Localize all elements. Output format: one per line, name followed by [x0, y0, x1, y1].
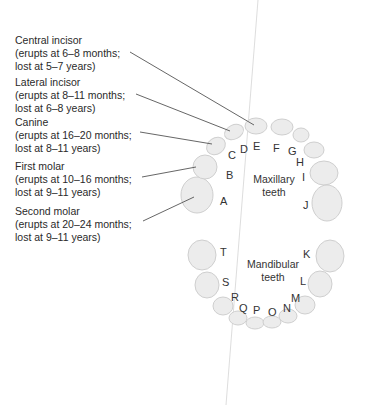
tooth-K — [316, 240, 344, 272]
tooth-I — [310, 161, 338, 185]
tooth-letter-R: R — [231, 291, 239, 303]
tooth-letter-E: E — [253, 140, 260, 152]
guide-line — [226, 0, 258, 405]
tooth-E — [245, 118, 267, 134]
tooth-D — [222, 121, 246, 142]
tooth-letter-T: T — [220, 246, 227, 258]
callout-lateral-incisor: Lateral incisor (erupts at 8–11 months; … — [15, 76, 125, 115]
maxillary-label-line2: teeth — [244, 186, 304, 199]
leader-central-incisor — [130, 52, 254, 125]
callout-loss: lost at 9–11 years) — [15, 186, 132, 199]
callout-eruption: (erupts at 10–16 months; — [15, 173, 132, 186]
mandibular-label-line2: teeth — [238, 271, 308, 284]
tooth-letter-M: M — [291, 292, 300, 304]
callout-eruption: (erupts at 16–20 months; — [15, 129, 132, 142]
callout-title: Lateral incisor — [15, 76, 125, 89]
callout-canine: Canine (erupts at 16–20 months; lost at … — [15, 116, 132, 155]
tooth-G — [293, 128, 309, 142]
callout-second-molar: Second molar (erupts at 20–24 months; lo… — [15, 205, 132, 244]
tooth-letter-D: D — [240, 143, 248, 155]
leader-lateral-incisor — [136, 94, 230, 131]
tooth-letter-S: S — [222, 276, 229, 288]
tooth-letter-C: C — [228, 149, 236, 161]
tooth-J — [312, 185, 342, 221]
tooth-L — [308, 271, 332, 297]
tooth-letter-N: N — [283, 302, 291, 314]
mandibular-label-line1: Mandibular — [238, 258, 308, 271]
maxillary-teeth-label: Maxillary teeth — [244, 173, 304, 199]
leader-canine — [140, 132, 212, 144]
callout-eruption: (erupts at 8–11 months; — [15, 89, 125, 102]
callout-central-incisor: Central incisor (erupts at 6–8 months; l… — [15, 34, 120, 73]
callout-title: Second molar — [15, 205, 132, 218]
tooth-letter-P: P — [253, 304, 260, 316]
tooth-A — [181, 177, 213, 213]
tooth-C — [203, 134, 229, 159]
tooth-letter-O: O — [268, 306, 277, 318]
tooth-S — [195, 272, 219, 298]
maxillary-teeth — [181, 118, 342, 221]
tooth-F — [271, 119, 293, 135]
tooth-B — [193, 155, 217, 179]
tooth-letter-J: J — [303, 199, 309, 211]
callout-title: First molar — [15, 160, 132, 173]
callout-title: Central incisor — [15, 34, 120, 47]
mandibular-teeth — [188, 240, 344, 329]
mandibular-teeth-label: Mandibular teeth — [238, 258, 308, 284]
tooth-letter-B: B — [226, 169, 233, 181]
tooth-H — [304, 142, 324, 158]
callout-eruption: (erupts at 6–8 months; — [15, 47, 120, 60]
maxillary-label-line1: Maxillary — [244, 173, 304, 186]
callout-loss: lost at 6–8 years) — [15, 102, 125, 115]
tooth-letter-F: F — [273, 142, 280, 154]
leader-first-molar — [142, 167, 196, 177]
tooth-letter-H: H — [296, 156, 304, 168]
callout-title: Canine — [15, 116, 132, 129]
callout-first-molar: First molar (erupts at 10–16 months; los… — [15, 160, 132, 199]
tooth-R — [213, 297, 233, 315]
tooth-P — [246, 317, 264, 329]
tooth-letter-A: A — [220, 195, 227, 207]
callout-eruption: (erupts at 20–24 months; — [15, 218, 132, 231]
callout-loss: lost at 5–7 years) — [15, 60, 120, 73]
tooth-T — [188, 240, 216, 270]
tooth-letter-Q: Q — [239, 302, 248, 314]
callout-loss: lost at 9–11 years) — [15, 231, 132, 244]
callout-loss: lost at 8–11 years) — [15, 142, 132, 155]
